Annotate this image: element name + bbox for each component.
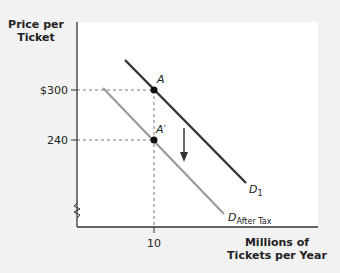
d1-label-sub: 1 <box>257 189 262 198</box>
tick-label-240: 240 <box>30 134 68 147</box>
y-axis-label-line1: Price per <box>2 18 70 31</box>
point-a-label: A <box>157 73 165 86</box>
x-axis-label: Millions of Tickets per Year <box>222 236 332 262</box>
tick-label-10: 10 <box>144 237 164 250</box>
d1-label: D1 <box>249 183 263 200</box>
dtax-label: DAfter Tax <box>228 211 271 228</box>
dtax-label-sub: After Tax <box>236 217 271 226</box>
point-a <box>151 87 158 94</box>
x-axis-label-line2: Tickets per Year <box>222 249 332 262</box>
tick-label-300: $300 <box>30 84 68 97</box>
point-a-prime-label: A′ <box>156 123 166 136</box>
point-a-prime <box>151 137 158 144</box>
y-axis-label-line2: Ticket <box>2 31 70 44</box>
plot-area <box>77 22 318 227</box>
y-axis-label: Price per Ticket <box>2 18 70 44</box>
x-axis-label-line1: Millions of <box>222 236 332 249</box>
